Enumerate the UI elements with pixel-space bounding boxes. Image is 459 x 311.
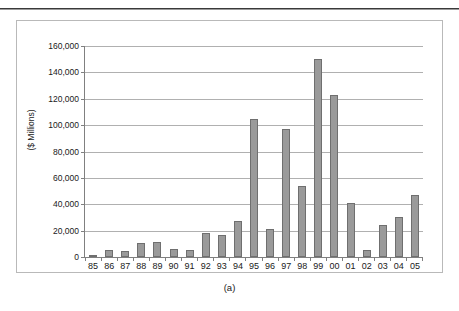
x-axis-tick-labels: 8586878889909192939495969798990001020304… xyxy=(85,261,423,271)
x-axis-tick-label: 90 xyxy=(165,261,181,271)
y-axis-tick-label: 20,000 xyxy=(53,226,79,236)
bar xyxy=(395,217,403,257)
y-axis-tick-labels: 020,00040,00060,00080,000100,000120,0001… xyxy=(33,21,79,274)
bar-column xyxy=(326,46,342,257)
bar-column xyxy=(262,46,278,257)
x-axis-tick-label: 88 xyxy=(133,261,149,271)
bar xyxy=(234,221,242,257)
bar-series xyxy=(85,46,423,257)
y-axis-tick-label: 40,000 xyxy=(53,199,79,209)
chart-frame: ($ Millions) 020,00040,00060,00080,00010… xyxy=(16,20,443,273)
bar xyxy=(379,225,387,257)
bar xyxy=(298,186,306,257)
bar-column xyxy=(133,46,149,257)
bar-column xyxy=(214,46,230,257)
x-axis-tick-label: 00 xyxy=(326,261,342,271)
bar xyxy=(363,250,371,257)
x-axis-tick-label: 86 xyxy=(101,261,117,271)
bar-column xyxy=(198,46,214,257)
bar-column xyxy=(165,46,181,257)
bar-column xyxy=(230,46,246,257)
x-axis-tick-label: 92 xyxy=(198,261,214,271)
figure-page: ($ Millions) 020,00040,00060,00080,00010… xyxy=(0,0,459,311)
x-axis-tick-label: 05 xyxy=(407,261,423,271)
y-axis-tick-label: 160,000 xyxy=(48,41,79,51)
bar xyxy=(330,95,338,257)
bar-column xyxy=(85,46,101,257)
x-axis-tick-label: 91 xyxy=(182,261,198,271)
x-axis-tick-label: 85 xyxy=(85,261,101,271)
bar-column xyxy=(101,46,117,257)
x-axis-tick-label: 89 xyxy=(149,261,165,271)
bar xyxy=(186,250,194,257)
bar-column xyxy=(343,46,359,257)
bar-column xyxy=(391,46,407,257)
bar-column xyxy=(407,46,423,257)
bar xyxy=(314,59,322,257)
y-axis-tick-label: 0 xyxy=(74,252,79,262)
bar-column xyxy=(294,46,310,257)
figure-caption: (a) xyxy=(0,282,459,293)
bar xyxy=(202,233,210,257)
y-axis-tick-label: 120,000 xyxy=(48,94,79,104)
bar xyxy=(250,119,258,257)
x-axis-tick-label: 94 xyxy=(230,261,246,271)
bar xyxy=(411,195,419,257)
bar xyxy=(137,243,145,257)
x-axis-tick-label: 02 xyxy=(359,261,375,271)
bar xyxy=(153,242,161,257)
x-axis-tick-label: 93 xyxy=(214,261,230,271)
bar xyxy=(347,203,355,257)
bar xyxy=(105,250,113,257)
x-axis-tick-label: 99 xyxy=(310,261,326,271)
y-axis-tick-label: 140,000 xyxy=(48,67,79,77)
bar-column xyxy=(278,46,294,257)
x-axis-tick-label: 04 xyxy=(391,261,407,271)
bar-column xyxy=(246,46,262,257)
plot-wrapper: ($ Millions) 020,00040,00060,00080,00010… xyxy=(17,21,444,274)
top-divider-rule xyxy=(0,8,459,10)
x-axis-tick-label: 01 xyxy=(343,261,359,271)
bar-column xyxy=(359,46,375,257)
bar xyxy=(282,129,290,257)
bar-column xyxy=(182,46,198,257)
bar xyxy=(170,249,178,257)
x-axis-tick-label: 03 xyxy=(375,261,391,271)
x-axis-tick-label: 98 xyxy=(294,261,310,271)
x-axis-tick-label: 96 xyxy=(262,261,278,271)
y-axis-tick-label: 80,000 xyxy=(53,147,79,157)
y-axis-tick-label: 100,000 xyxy=(48,120,79,130)
plot-area xyxy=(85,46,423,257)
bar-column xyxy=(149,46,165,257)
y-axis-tick-label: 60,000 xyxy=(53,173,79,183)
x-axis-tick-label: 95 xyxy=(246,261,262,271)
bar-column xyxy=(117,46,133,257)
x-axis-tick-label: 97 xyxy=(278,261,294,271)
bar xyxy=(218,235,226,257)
bar-column xyxy=(310,46,326,257)
bar xyxy=(266,229,274,257)
bar-column xyxy=(375,46,391,257)
x-axis-tick-label: 87 xyxy=(117,261,133,271)
